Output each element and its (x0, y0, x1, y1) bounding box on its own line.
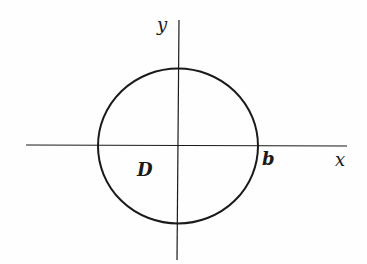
y-axis-label: y (157, 16, 167, 34)
diagram-svg (0, 0, 367, 264)
radius-label: b (262, 150, 275, 168)
x-axis (26, 145, 347, 146)
region-label: D (137, 161, 153, 179)
x-axis-label: x (335, 151, 345, 169)
diagram-canvas: y x D b (0, 0, 367, 264)
